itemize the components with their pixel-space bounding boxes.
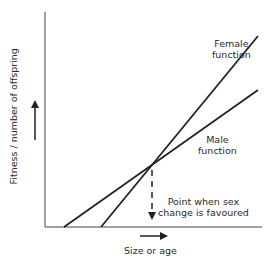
x-axis-label: Size or age — [124, 245, 177, 256]
male-label-line1: Male — [198, 134, 237, 145]
y-axis-label: Fitness / number of offspring — [8, 49, 19, 185]
male-label-line2: function — [198, 145, 237, 156]
female-label-line2: function — [212, 49, 251, 60]
male-function-label: Male function — [198, 134, 237, 156]
sex-change-annotation: Point when sex change is favoured — [158, 196, 249, 218]
female-function-label: Female function — [212, 38, 251, 60]
annotation-line1: Point when sex — [158, 196, 249, 207]
female-label-line1: Female — [212, 38, 251, 49]
annotation-line2: change is favoured — [158, 207, 249, 218]
